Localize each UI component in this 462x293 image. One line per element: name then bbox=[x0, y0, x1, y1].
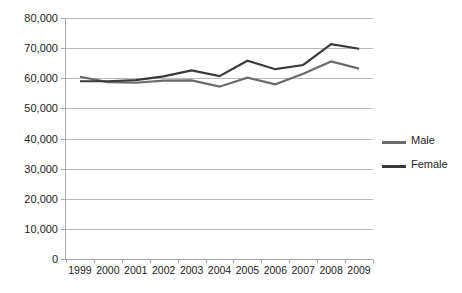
legend-entry-female[interactable]: Female bbox=[382, 156, 462, 180]
legend-swatch-female bbox=[382, 165, 406, 168]
legend: MaleFemale bbox=[382, 132, 462, 180]
series-line-male bbox=[80, 61, 359, 86]
legend-entry-male[interactable]: Male bbox=[382, 132, 462, 156]
legend-label: Female bbox=[411, 158, 448, 171]
series-line-female bbox=[80, 44, 359, 81]
legend-swatch-male bbox=[382, 141, 406, 144]
line-chart: 010,00020,00030,00040,00050,00060,00070,… bbox=[0, 0, 462, 293]
legend-label: Male bbox=[411, 134, 435, 147]
